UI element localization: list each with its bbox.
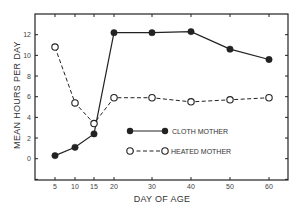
open-circle-icon (149, 95, 155, 101)
y-tick-label: 2 (27, 135, 31, 142)
legend-label-cloth: CLOTH MOTHER (172, 128, 228, 135)
x-tick-label: 5 (53, 183, 57, 190)
open-circle-icon (91, 120, 97, 126)
legend-label-heated: HEATED MOTHER (171, 148, 231, 155)
filled-circle-icon (91, 131, 97, 137)
open-circle-icon (162, 148, 168, 154)
open-circle-icon (188, 99, 194, 105)
open-circle-icon (72, 100, 78, 106)
y-tick-label: 6 (27, 93, 31, 100)
open-circle-icon (127, 148, 133, 154)
filled-circle-icon (52, 152, 58, 158)
y-tick-labels: 024681012 (23, 31, 31, 162)
heated-mother-line (55, 47, 269, 123)
cloth-mother-line (55, 32, 269, 156)
x-tick-labels: 510152030405060 (53, 183, 273, 190)
filled-circle-icon (149, 29, 155, 35)
y-tick-label: 12 (23, 31, 31, 38)
x-tick-label: 20 (110, 183, 118, 190)
filled-circle-icon (162, 128, 168, 134)
x-axis-title: DAY OF AGE (134, 194, 191, 204)
x-tick-label: 10 (71, 183, 79, 190)
filled-circle-icon (266, 56, 272, 62)
open-circle-icon (266, 95, 272, 101)
x-tick-label: 15 (90, 183, 98, 190)
y-tick-label: 10 (23, 52, 31, 59)
open-circle-icon (227, 97, 233, 103)
chart: 024681012 510152030405060 DAY OF AGE MEA… (0, 0, 302, 213)
y-axis-title: MEAN HOURS PER DAY (12, 41, 22, 149)
filled-circle-icon (188, 28, 194, 34)
filled-circle-icon (72, 144, 78, 150)
open-circle-icon (111, 95, 117, 101)
data-series (52, 28, 272, 158)
filled-circle-icon (111, 29, 117, 35)
y-tick-label: 4 (27, 114, 31, 121)
x-tick-label: 50 (226, 183, 234, 190)
filled-circle-icon (127, 128, 133, 134)
y-tick-label: 8 (27, 73, 31, 80)
y-tick-label: 0 (27, 155, 31, 162)
x-tick-label: 40 (187, 183, 195, 190)
filled-circle-icon (227, 46, 233, 52)
x-tick-label: 60 (265, 183, 273, 190)
legend: CLOTH MOTHER HEATED MOTHER (127, 128, 231, 155)
x-tick-label: 30 (148, 183, 156, 190)
open-circle-icon (52, 44, 58, 50)
